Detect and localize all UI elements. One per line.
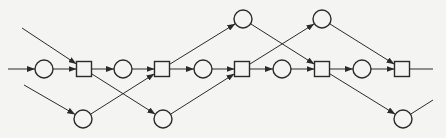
- place-circle-p3: [194, 60, 212, 78]
- arc: [171, 74, 235, 114]
- place-circle-pb3: [394, 110, 412, 128]
- place-circle-pb2: [154, 110, 172, 128]
- place-circle-p1: [35, 60, 53, 78]
- place-circle-p4: [273, 60, 291, 78]
- transition-square-t1: [77, 62, 92, 77]
- arc: [330, 74, 396, 115]
- arc: [170, 24, 236, 65]
- transition-square-t3: [235, 62, 250, 77]
- place-circle-pb1: [74, 110, 92, 128]
- transition-square-t5: [395, 62, 410, 77]
- petri-net-diagram: [0, 0, 446, 138]
- place-circle-p2: [114, 60, 132, 78]
- arc: [330, 24, 395, 65]
- transition-square-t2: [155, 62, 170, 77]
- arc: [411, 100, 433, 114]
- place-circle-pt2: [313, 10, 331, 28]
- place-circle-p5: [353, 60, 371, 78]
- arc: [24, 85, 75, 115]
- place-circle-pt1: [234, 10, 252, 28]
- transition-square-t4: [315, 62, 330, 77]
- arc: [22, 28, 77, 64]
